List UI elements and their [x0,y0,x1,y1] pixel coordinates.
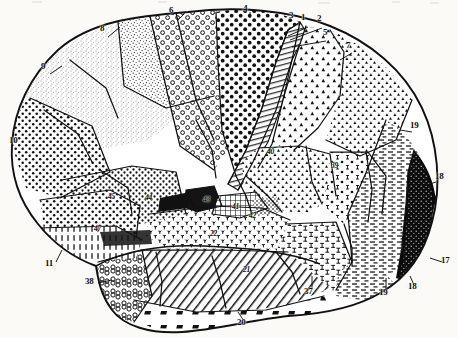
area-label-7: 7 [346,41,350,50]
area-label-5: 5 [323,28,327,37]
area-label-39: 39 [331,162,338,170]
area-label-17: 17 [441,256,449,265]
area-label-18-lower: 18 [408,282,416,291]
sylvian-dark-band [100,230,152,246]
area-label-44: 44 [145,194,152,202]
area-label-20: 20 [237,318,245,327]
area-label-47: 47 [94,225,101,233]
area-label-11: 11 [45,259,53,268]
area-label-19-upper: 19 [410,121,418,130]
area-label-8: 8 [100,24,104,33]
area-label-9: 9 [41,62,45,71]
area-label-38: 38 [85,277,93,286]
area-label-42: 42 [249,212,256,220]
area-label-10: 10 [9,136,17,145]
area-label-37: 37 [304,287,312,296]
area-label-4: 4 [243,4,247,13]
area-label-3: 3 [289,11,293,20]
area-label-40: 40 [267,148,274,156]
brodmann-cytoarchitectonic-map: 4 6 8 9 10 11 3 1 2 5 7 19 18 17 18 19 3… [0,0,458,338]
area-label-1: 1 [301,13,305,22]
brain-map-svg [0,0,458,338]
area-label-43: 43 [203,196,210,204]
area-label-19-lower: 19 [379,288,387,297]
area-label-41: 41 [232,203,239,211]
area-label-2: 2 [317,14,321,23]
area-label-6: 6 [169,6,173,15]
area-label-18-upper: 18 [435,172,443,181]
area-label-45: 45 [108,193,115,201]
area-label-21: 21 [243,266,250,274]
area-label-22: 22 [210,230,217,238]
